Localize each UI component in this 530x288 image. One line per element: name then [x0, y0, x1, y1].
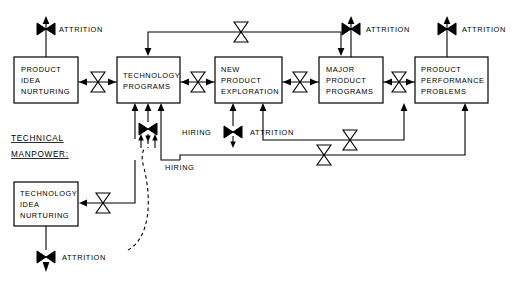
- arrow-attrition-technology-idea: [43, 262, 50, 272]
- box-label-line: EXPLORATION: [221, 87, 279, 96]
- arrow-feedback-upper: [401, 103, 408, 111]
- arrow-inflow-new-product-a: [230, 103, 237, 111]
- label-attrition-major-product: ATTRITION: [366, 25, 410, 34]
- arrow-inflow-technology-c: [158, 103, 165, 111]
- arrow-left-technology-programs: [181, 79, 189, 86]
- label-hiring-technology-programs: HIRING: [182, 128, 211, 137]
- arrow-attrition-product-idea: [43, 16, 50, 24]
- label-attrition-product-idea: ATTRITION: [59, 25, 103, 34]
- label-attrition-product-performance: ATTRITION: [462, 25, 506, 34]
- arrow-hiring-sub-b: [145, 136, 150, 143]
- arrow-right-major-product: [310, 79, 318, 86]
- arrow-attrition-performance: [444, 16, 451, 24]
- section-label-technical: TECHNICAL: [11, 134, 64, 143]
- label-attrition-technology-idea: ATTRITION: [62, 253, 106, 262]
- arrow-inflow-technology-a: [132, 103, 139, 111]
- line-hiring-feed: [161, 155, 180, 160]
- box-label-line: PRODUCT: [326, 76, 366, 85]
- arrow-top-feedback-down-technology: [145, 48, 152, 56]
- box-label-line: PRODUCT: [421, 65, 461, 74]
- arrow-top-feedback-down-major: [338, 48, 345, 56]
- box-label-line: PERFORMANCE: [421, 76, 485, 85]
- arrow-inflow-new-product-b: [260, 103, 267, 111]
- box-label-line: NURTURING: [21, 87, 70, 96]
- arrow-outflow-new-product: [230, 142, 235, 149]
- box-product-performance-problems[interactable]: PRODUCT PERFORMANCE PROBLEMS: [415, 57, 488, 103]
- label-hiring-technology-idea: HIRING: [165, 163, 194, 172]
- arrow-technology-idea-inflow: [79, 200, 87, 207]
- box-label-line: TECHNOLOGY: [123, 71, 180, 80]
- box-label-line: MAJOR: [326, 65, 355, 74]
- box-technology-programs[interactable]: TECHNOLOGY PROGRAMS: [117, 57, 180, 103]
- arrow-right-new-product: [206, 79, 214, 86]
- box-label-line: IDEA: [20, 200, 39, 209]
- section-label-manpower: MANPOWER:: [11, 150, 69, 159]
- box-label-line: PROGRAMS: [123, 82, 171, 91]
- arrow-left-new-product: [283, 79, 291, 86]
- box-label-line: IDEA: [21, 76, 40, 85]
- line-dashed-attrition-to-hiring: [128, 148, 148, 250]
- arrow-feedback-lower: [462, 103, 469, 111]
- box-new-product-exploration[interactable]: NEW PRODUCT EXPLORATION: [215, 57, 282, 103]
- label-attrition-new-product: ATTRITION: [250, 128, 294, 137]
- diagram-canvas: PRODUCT IDEA NURTURING TECHNOLOGY PROGRA…: [0, 0, 530, 288]
- arrow-attrition-major-product: [348, 16, 355, 24]
- arrow-left-product-idea: [79, 79, 87, 86]
- box-technology-idea-nurturing[interactable]: TECHNOLOGY IDEA NURTURING: [14, 182, 78, 226]
- box-label-line: PRODUCT: [21, 65, 61, 74]
- box-label-line: TECHNOLOGY: [20, 189, 77, 198]
- box-label-line: NEW: [221, 65, 240, 74]
- valve-attrition-technology-idea[interactable]: [37, 251, 55, 263]
- arrow-right-technology-programs: [108, 79, 116, 86]
- valve-hiring-technology-programs[interactable]: [139, 123, 157, 135]
- box-product-idea-nurturing[interactable]: PRODUCT IDEA NURTURING: [14, 57, 78, 103]
- box-label-line: PROGRAMS: [326, 87, 374, 96]
- arrow-left-major-product: [384, 79, 392, 86]
- line-technology-idea-inflow: [86, 160, 135, 203]
- arrow-inflow-technology-b: [145, 103, 152, 111]
- box-label-line: PRODUCT: [221, 76, 261, 85]
- box-major-product-programs[interactable]: MAJOR PRODUCT PROGRAMS: [319, 57, 383, 103]
- box-label-line: NURTURING: [20, 211, 69, 220]
- box-label-line: PROBLEMS: [421, 87, 466, 96]
- arrow-right-performance: [406, 79, 414, 86]
- flow-diagram: PRODUCT IDEA NURTURING TECHNOLOGY PROGRA…: [0, 0, 530, 288]
